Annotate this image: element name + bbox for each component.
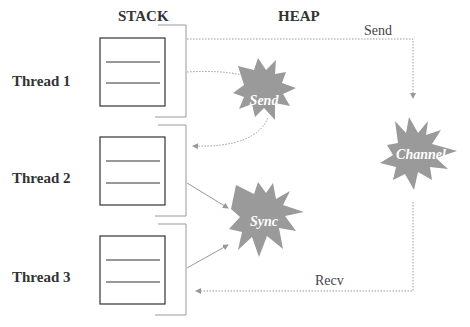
thread3-sync-edge — [187, 245, 228, 268]
thread-2-label: Thread 2 — [12, 170, 70, 186]
send-thread2-edge — [193, 118, 268, 146]
send-edge — [187, 39, 413, 98]
stack-frame-thread-1 — [100, 38, 165, 106]
thread1-send-edge — [187, 71, 242, 75]
recv-edge-label: Recv — [315, 273, 344, 288]
sync-burst-icon: Sync — [229, 182, 304, 257]
recv-edge — [196, 202, 413, 291]
channel-burst-label: Channel — [396, 147, 446, 162]
thread-brackets — [155, 25, 186, 315]
sync-burst-label: Sync — [250, 214, 279, 229]
diagram-canvas: STACK HEAP Thread 1 Thread 2 Thread 3 Se… — [0, 0, 470, 327]
stack-frame-thread-3 — [100, 236, 165, 304]
heap-header: HEAP — [278, 8, 320, 24]
send-burst-label: Send — [250, 93, 280, 108]
stack-header: STACK — [118, 8, 169, 24]
thread-3-label: Thread 3 — [12, 269, 70, 285]
thread-1-label: Thread 1 — [12, 73, 70, 89]
send-burst-icon: Send — [233, 58, 296, 120]
thread2-sync-edge — [187, 183, 228, 208]
channel-burst-icon: Channel — [380, 117, 457, 190]
stack-frame-thread-2 — [100, 137, 165, 205]
send-edge-label: Send — [364, 23, 392, 38]
